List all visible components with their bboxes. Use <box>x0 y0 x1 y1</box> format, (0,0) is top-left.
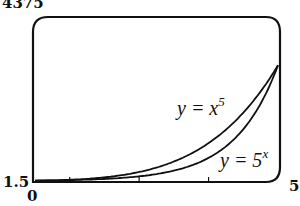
x-min-label: 1.5 <box>3 175 29 190</box>
y-min-label: 0 <box>27 189 37 204</box>
curve-label-x5-base: y = x <box>177 97 218 119</box>
x-max-label: 5 <box>289 179 299 194</box>
curve-label-5x-exp: x <box>262 146 268 161</box>
y-max-label: 4375 <box>2 0 44 11</box>
plot-area <box>0 0 300 206</box>
curve-label-x5-exp: 5 <box>218 94 225 109</box>
curve-label-x5: y = x5 <box>177 98 225 118</box>
curve-label-5x: y = 5x <box>220 150 268 170</box>
curve-label-5x-base: y = 5 <box>220 149 262 171</box>
